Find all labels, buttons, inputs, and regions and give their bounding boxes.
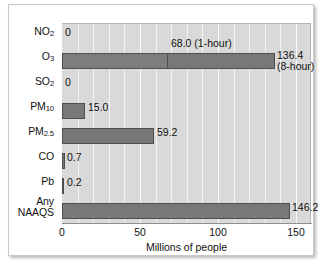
bar-o3-1hour [62, 53, 168, 69]
x-axis-tick-0: 0 [59, 226, 65, 238]
chart-figure-frame: NO2 O3 SO2 PM10 PM2.5 CO Pb Any NAAQS [8, 4, 314, 256]
bar-value-label-so2: 0 [65, 77, 71, 88]
bar-pm25 [62, 128, 154, 144]
bar-value-label-pm10: 15.0 [88, 102, 108, 113]
y-axis-label-pm10-text: PM [30, 101, 46, 112]
x-axis-tick-150: 150 [287, 226, 305, 238]
y-axis-label-o3-subscript: 3 [50, 55, 54, 63]
bar-pb [62, 178, 64, 194]
y-axis-label-pm25-subscript: 2.5 [44, 130, 54, 138]
y-axis-category-labels: NO2 O3 SO2 PM10 PM2.5 CO Pb Any NAAQS [9, 19, 54, 219]
bar-value-label-pm25: 59.2 [157, 127, 177, 138]
bar-value-label-any-naaqs: 146.2 [292, 202, 318, 213]
y-axis-label-pm25: PM2.5 [9, 119, 54, 144]
y-axis-label-no2-subscript: 2 [50, 30, 54, 38]
y-axis-label-no2-text: NO [34, 26, 50, 37]
x-axis-line [62, 223, 312, 224]
y-axis-label-pm10: PM10 [9, 94, 54, 119]
bar-row-o3: 68.0 (1-hour) 136.4 (8-hour) [62, 49, 310, 74]
bar-value-label-pb: 0.2 [67, 177, 82, 188]
bar-co [62, 153, 65, 169]
x-axis-title: Millions of people [62, 241, 311, 253]
bar-row-so2: 0 [62, 74, 310, 99]
bar-value-label-o3-1hour: 68.0 (1-hour) [171, 38, 232, 49]
y-axis-label-o3-text: O [42, 51, 50, 62]
bar-any-naaqs [62, 203, 290, 219]
bar-row-pm10: 15.0 [62, 99, 310, 124]
bar-row-co: 0.7 [62, 149, 310, 174]
y-axis-label-co: CO [9, 144, 54, 169]
x-axis-tick-50: 50 [134, 226, 146, 238]
y-axis-label-pm25-text: PM [28, 126, 44, 137]
y-axis-label-so2-text: SO [35, 76, 50, 87]
y-axis-label-so2-subscript: 2 [50, 80, 54, 88]
y-axis-label-pm10-subscript: 10 [46, 105, 54, 113]
bar-value-label-o3-8hour: 136.4 (8-hour) [277, 50, 314, 73]
x-axis-tick-100: 100 [209, 226, 227, 238]
bar-pm10 [62, 103, 85, 119]
plot-area: 0 68.0 (1-hour) 136.4 (8-hour) 0 15.0 59… [62, 23, 311, 223]
y-axis-label-any-naaqs: Any NAAQS [9, 194, 54, 219]
bar-row-any-naaqs: 146.2 [62, 199, 310, 224]
y-axis-label-pb: Pb [9, 169, 54, 194]
x-axis-tick-labels: 0 50 100 150 [62, 226, 311, 240]
y-axis-label-o3: O3 [9, 44, 54, 69]
y-axis-label-no2: NO2 [9, 19, 54, 44]
bar-row-pm25: 59.2 [62, 124, 310, 149]
bar-value-label-co: 0.7 [67, 152, 82, 163]
bar-value-label-no2: 0 [65, 27, 71, 38]
bar-row-pb: 0.2 [62, 174, 310, 199]
y-axis-label-so2: SO2 [9, 69, 54, 94]
